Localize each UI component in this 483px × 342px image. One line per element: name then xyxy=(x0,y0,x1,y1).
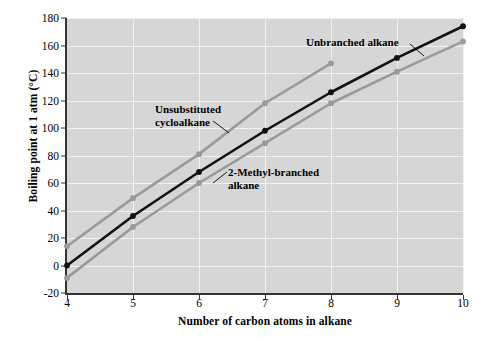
annotation-methyl-line2: alkane xyxy=(228,179,259,191)
gridline-vertical xyxy=(331,18,332,293)
y-tick-mark xyxy=(61,155,66,156)
y-tick-mark xyxy=(61,73,66,74)
annotation-unbranched-alkane: Unbranched alkane xyxy=(306,36,399,49)
y-tick-label: 40 xyxy=(19,205,59,217)
annotation-cycloalkane-line2: cycloalkane xyxy=(155,116,210,128)
y-tick-mark xyxy=(61,18,66,19)
y-tick-label: 80 xyxy=(19,150,59,162)
x-tick-mark xyxy=(397,295,398,300)
y-tick-label: 100 xyxy=(19,122,59,134)
x-tick-mark xyxy=(199,295,200,300)
y-axis-line xyxy=(65,18,67,295)
gridline-vertical xyxy=(397,18,398,293)
gridline-vertical xyxy=(265,18,266,293)
gridline-vertical xyxy=(199,18,200,293)
x-axis-line xyxy=(65,293,463,295)
y-tick-label: 180 xyxy=(19,12,59,24)
x-tick-mark xyxy=(133,295,134,300)
x-tick-mark xyxy=(265,295,266,300)
annotation-methyl-line1: 2-Methyl-branched xyxy=(228,166,319,178)
y-tick-mark xyxy=(61,238,66,239)
y-tick-mark xyxy=(61,293,66,294)
annotation-unsubstituted-cycloalkane: Unsubstitutedcycloalkane xyxy=(155,103,221,129)
y-tick-label: 160 xyxy=(19,40,59,52)
y-tick-mark xyxy=(61,128,66,129)
x-tick-mark xyxy=(67,295,68,300)
x-tick-mark xyxy=(463,295,464,300)
y-tick-label: 140 xyxy=(19,67,59,79)
annotation-cycloalkane-line1: Unsubstituted xyxy=(155,103,221,115)
annotation-2-methyl-branched-alkane: 2-Methyl-branchedalkane xyxy=(228,166,319,192)
x-axis-title: Number of carbon atoms in alkane xyxy=(67,315,463,327)
gridline-vertical xyxy=(133,18,134,293)
plot-area xyxy=(67,18,463,293)
y-tick-mark xyxy=(61,183,66,184)
y-tick-label: 120 xyxy=(19,95,59,107)
y-tick-label: 20 xyxy=(19,232,59,244)
y-tick-mark xyxy=(61,265,66,266)
y-tick-label: 60 xyxy=(19,177,59,189)
boiling-point-chart-figure: Boiling point at 1 atm (°C) -20020406080… xyxy=(0,0,483,342)
y-tick-mark xyxy=(61,210,66,211)
y-tick-label: 0 xyxy=(19,260,59,272)
y-tick-mark xyxy=(61,45,66,46)
y-tick-mark xyxy=(61,100,66,101)
gridline-vertical xyxy=(463,18,464,293)
x-tick-mark xyxy=(331,295,332,300)
